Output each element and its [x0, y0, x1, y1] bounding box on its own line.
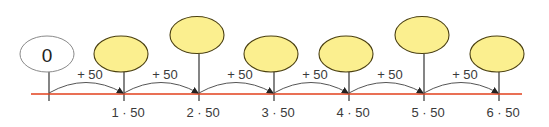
tick-label-3: 3 · 50 [261, 106, 294, 119]
balloon-answer-5[interactable] [395, 17, 449, 54]
jump-arc-icon [199, 83, 273, 94]
jump-arc-icon [274, 83, 348, 94]
tick-label-4: 4 · 50 [336, 106, 369, 119]
jump-label: + 50 [452, 68, 478, 81]
tick-label-2: 2 · 50 [186, 106, 219, 119]
jump-label: + 50 [77, 68, 103, 81]
jump-arc-icon [424, 83, 498, 94]
jump-arc-icon [349, 83, 423, 94]
tick-label-5: 5 · 50 [411, 106, 444, 119]
jump-label: + 50 [152, 68, 178, 81]
jump-label: + 50 [227, 68, 253, 81]
balloons [20, 17, 524, 73]
jump-label: + 50 [302, 68, 328, 81]
jump-arc-icon [124, 83, 198, 94]
zero-label: 0 [42, 46, 53, 65]
jump-arc-icon [49, 83, 123, 94]
jump-label: + 50 [377, 68, 403, 81]
balloon-answer-2[interactable] [170, 17, 224, 54]
tick-label-1: 1 · 50 [111, 106, 144, 119]
balloon-answer-6[interactable] [470, 36, 524, 72]
tick-label-6: 6 · 50 [486, 106, 519, 119]
